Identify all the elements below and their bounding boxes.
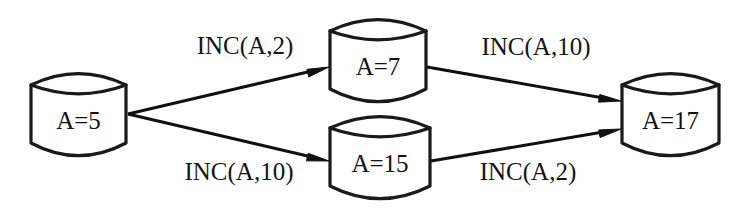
state-transition-diagram: A=5A=7A=15A=17 INC(A,2)INC(A,10)INC(A,10… xyxy=(0,0,745,209)
edge-line xyxy=(128,70,317,114)
edge-label-edge-start-lower: INC(A,10) xyxy=(184,158,293,186)
edge-start-upper xyxy=(128,67,329,114)
node-label: A=5 xyxy=(56,107,101,134)
node-label: A=7 xyxy=(356,53,401,80)
edge-line xyxy=(431,131,609,161)
node-label: A=15 xyxy=(351,150,408,177)
node-start[interactable]: A=5 xyxy=(31,74,126,156)
node-label: A=17 xyxy=(642,107,699,134)
node-lower[interactable]: A=15 xyxy=(330,117,430,199)
arrow-head-icon xyxy=(306,153,329,161)
edge-upper-end xyxy=(427,67,621,102)
edge-line xyxy=(128,114,317,158)
nodes-layer: A=5A=7A=15A=17 xyxy=(31,20,719,199)
edge-start-lower xyxy=(128,114,329,161)
node-end[interactable]: A=17 xyxy=(622,74,719,156)
edge-label-edge-upper-end: INC(A,10) xyxy=(481,33,590,61)
edge-lower-end xyxy=(431,129,621,161)
diagram-canvas: A=5A=7A=15A=17 INC(A,2)INC(A,10)INC(A,10… xyxy=(0,0,745,209)
edge-line xyxy=(427,67,609,99)
arrow-head-icon xyxy=(598,94,621,102)
arrow-head-icon xyxy=(307,67,329,77)
edge-label-edge-lower-end: INC(A,2) xyxy=(480,158,577,186)
edge-label-edge-start-upper: INC(A,2) xyxy=(197,32,294,60)
node-upper[interactable]: A=7 xyxy=(330,20,426,102)
arrow-head-icon xyxy=(599,129,621,138)
